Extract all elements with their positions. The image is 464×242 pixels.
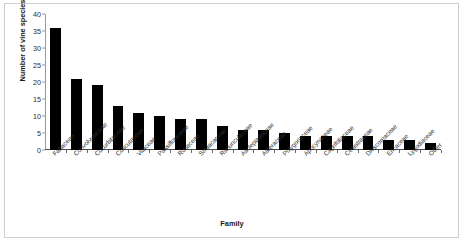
y-axis-title: Number of vine species [18,0,27,100]
bar [50,28,61,150]
x-axis-category-labels: FabaceaeConvolvulaceaeCucurbitaceaeCuscu… [45,152,441,214]
vine-species-bar-chart: Number of vine species 0510152025303540 … [0,0,464,242]
x-axis-tick-mark [441,150,442,153]
x-axis-title: Family [0,219,464,228]
